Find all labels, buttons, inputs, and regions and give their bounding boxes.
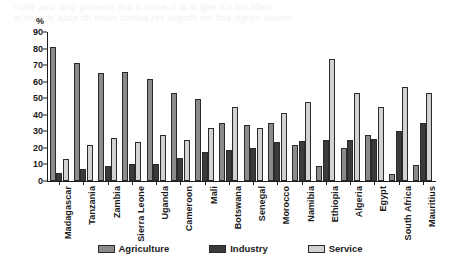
x-axis-tick-mark [180,181,181,185]
bar-agriculture-ethiopia [316,166,322,181]
bar-group [316,32,335,181]
bar-service-namibia [305,102,311,181]
y-axis-tick-mark [43,114,47,115]
y-axis-tick-mark [43,131,47,132]
x-axis-tick-mark [59,181,60,185]
scan-ghost-text: cipiie apic ianp gioriemn doe lt ontoa c… [14,2,450,26]
x-axis-label-sierra-leone: Sierra Leone [136,186,146,242]
bar-agriculture-sierra-leone [122,72,128,181]
bar-group [341,32,360,181]
x-axis-label-mauritius: Mauritius [427,186,437,227]
bar-service-mauritius [426,93,432,181]
x-axis-label-egypt: Egypt [378,186,388,212]
x-axis-tick-mark [374,181,375,185]
bar-agriculture-senegal [244,125,250,181]
bar-service-zambia [111,138,117,181]
legend-label: Agriculture [119,243,170,254]
bar-group [365,32,384,181]
bar-service-south-africa [402,87,408,181]
bar-group [74,32,93,181]
bar-group [268,32,287,181]
bar-industry-cameroon [177,158,183,181]
bar-agriculture-algeria [341,148,347,181]
legend-swatch-agriculture-icon [98,245,115,253]
y-axis-tick-mark [43,164,47,165]
x-axis-tick-mark [132,181,133,185]
bar-industry-uganda [153,164,159,181]
x-axis-label-namibia: Namibia [306,186,316,222]
bar-agriculture-morocco [268,123,274,181]
legend-item-industry[interactable]: Industry [209,243,267,254]
bar-industry-tanzania [80,169,86,181]
bar-agriculture-tanzania [74,63,80,181]
bar-industry-ethiopia [323,140,329,181]
bar-industry-south-africa [396,131,402,181]
bar-industry-botswana [226,150,232,181]
bar-service-algeria [354,93,360,181]
x-axis-label-algeria: Algeria [354,186,364,217]
x-axis-tick-mark [83,181,84,185]
bar-service-botswana [232,107,238,182]
bar-service-senegal [257,128,263,181]
bar-industry-namibia [299,141,305,181]
y-axis-tick-mark [43,98,47,99]
bar-industry-morocco [274,142,280,181]
bar-group [147,32,166,181]
bar-industry-senegal [250,148,256,181]
legend-item-service[interactable]: Service [308,243,363,254]
bar-service-tanzania [87,145,93,181]
ghost-line-2: ai imen fo aaoe tfn nftolu cotrioa rov a… [14,13,450,24]
x-axis-tick-mark [302,181,303,185]
bar-group [244,32,263,181]
bar-service-egypt [378,107,384,182]
bar-group [389,32,408,181]
bar-agriculture-egypt [365,135,371,181]
bar-service-cameroon [184,140,190,181]
x-axis-label-uganda: Uganda [160,186,170,220]
bar-group [50,32,69,181]
x-axis-label-morocco: Morocco [281,186,291,224]
bar-industry-madagascar [56,173,62,181]
x-axis-label-madagascar: Madagascar [63,186,73,239]
ghost-line-1: cipiie apic ianp gioriemn doe lt ontoa c… [14,2,450,13]
x-axis-label-south-africa: South Africa [403,186,413,240]
bar-group [98,32,117,181]
bar-agriculture-mauritius [413,165,419,181]
bar-industry-egypt [371,139,377,181]
x-axis-label-cameroon: Cameroon [184,186,194,231]
bar-group [122,32,141,181]
x-axis-tick-mark [229,181,230,185]
x-axis-tick-mark [253,181,254,185]
legend-swatch-service-icon [308,245,325,253]
bar-industry-mali [202,152,208,181]
x-axis-tick-mark [326,181,327,185]
bar-industry-sierra-leone [129,164,135,181]
chart-legend: AgricultureIndustryService [0,243,460,254]
bar-group [195,32,214,181]
x-axis-tick-mark [399,181,400,185]
y-axis-tick-mark [43,48,47,49]
bar-industry-mauritius [420,123,426,181]
x-axis-label-ethiopia: Ethiopia [330,186,340,222]
x-axis-line [47,181,436,182]
y-axis-unit-label: % [36,16,44,26]
legend-item-agriculture[interactable]: Agriculture [98,243,170,254]
bar-industry-zambia [105,166,111,181]
y-axis-tick-mark [43,147,47,148]
bar-group [292,32,311,181]
bar-agriculture-uganda [147,79,153,181]
plot-area: 0102030405060708090 [47,32,435,181]
x-axis-tick-mark [350,181,351,185]
legend-label: Industry [230,243,267,254]
bar-agriculture-madagascar [50,47,56,181]
bar-service-madagascar [63,159,69,181]
x-axis-label-zambia: Zambia [112,186,122,218]
legend-swatch-industry-icon [209,245,226,253]
x-axis-label-botswana: Botswana [233,186,243,229]
x-axis-label-tanzania: Tanzania [87,186,97,225]
bar-service-sierra-leone [135,142,141,181]
x-axis-tick-mark [277,181,278,185]
bar-chart-figure: cipiie apic ianp gioriemn doe lt ontoa c… [0,0,460,271]
y-axis-tick-mark [43,181,47,182]
x-axis-label-senegal: Senegal [257,186,267,221]
